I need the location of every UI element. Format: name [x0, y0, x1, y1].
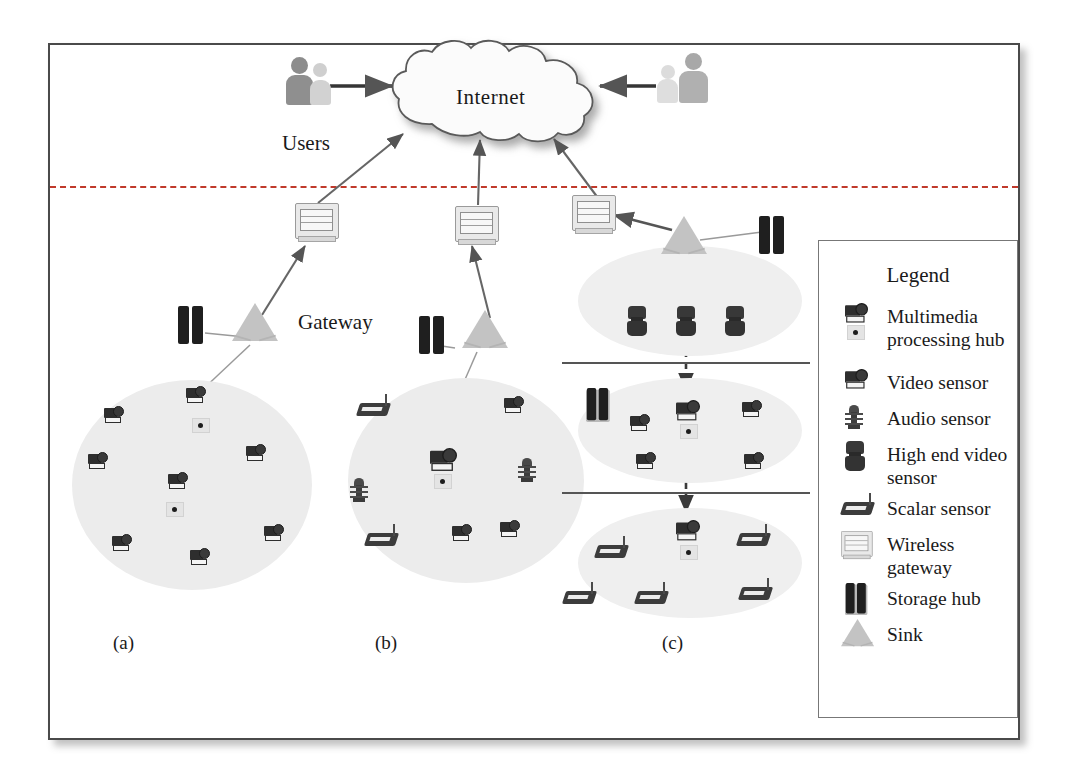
multimedia-processing-hub-c-tier2-marker[interactable] — [680, 424, 698, 439]
video-sensor-a3[interactable] — [88, 452, 108, 467]
tier2-tier3-separator — [562, 492, 810, 494]
legend-label: Sink — [887, 621, 923, 646]
legend-icon-slot — [841, 621, 887, 651]
storage-hub-cluster-c-tier2[interactable] — [586, 388, 610, 420]
legend-panel: Legend Multimedia processing hub Video — [818, 240, 1018, 718]
audio-sensor-b2[interactable] — [350, 478, 368, 502]
legend-item-sink: Sink — [819, 621, 1017, 651]
legend-item-audio-sensor: Audio sensor — [819, 405, 1017, 435]
legend-icon-slot — [841, 585, 887, 615]
video-sensor-a4[interactable] — [246, 444, 266, 459]
legend-icon-slot — [841, 495, 887, 525]
wireless-gateway-c[interactable] — [572, 195, 614, 233]
legend-label: Wireless gateway — [887, 531, 1017, 579]
multimedia-processing-hub-a2[interactable] — [166, 502, 184, 517]
scalar-sensor-c4[interactable] — [738, 528, 772, 548]
video-sensor-b2[interactable] — [452, 524, 472, 539]
legend-label: Storage hub — [887, 585, 981, 610]
internet-label: Internet — [456, 85, 525, 110]
multimedia-processing-hub-c-tier2[interactable] — [676, 400, 700, 418]
multimedia-processing-hub-b-marker[interactable] — [434, 474, 452, 489]
legend-icon-slot — [841, 441, 887, 471]
storage-hub-cluster-c-tier1[interactable] — [758, 216, 786, 254]
wireless-gateway-a[interactable] — [295, 203, 337, 241]
scalar-sensor-c2[interactable] — [564, 586, 598, 606]
video-sensor-a8[interactable] — [190, 548, 210, 563]
sink-cluster-b[interactable] — [462, 310, 508, 354]
wireless-gateway-icon — [841, 531, 871, 558]
legend-icon-slot — [841, 303, 887, 333]
video-sensor-a2[interactable] — [104, 406, 124, 421]
video-sensor-a1[interactable] — [186, 386, 206, 401]
high-end-video-sensor-c1[interactable] — [626, 306, 648, 336]
scalar-sensor-c5[interactable] — [740, 582, 774, 602]
legend-label: High end video sensor — [887, 441, 1017, 489]
users-right-group — [655, 53, 709, 111]
video-sensor-b3[interactable] — [500, 520, 520, 535]
gateway-label: Gateway — [298, 310, 373, 335]
scalar-sensor-b2[interactable] — [366, 528, 400, 548]
multimedia-processing-hub-c-tier3-marker[interactable] — [680, 545, 698, 560]
legend-icon-slot — [841, 369, 887, 399]
video-sensor-b1[interactable] — [504, 396, 524, 411]
video-sensor-a6[interactable] — [264, 524, 284, 539]
wireless-gateway-b[interactable] — [455, 206, 497, 244]
high-end-video-sensor-icon — [844, 441, 866, 471]
audio-sensor-b1[interactable] — [518, 458, 536, 482]
figure-canvas: Internet Users Gateway (a) (b) (c) — [0, 0, 1078, 780]
multimedia-processing-hub-icon-marker — [847, 325, 865, 340]
storage-hub-cluster-b[interactable] — [418, 316, 446, 354]
users-label: Users — [282, 131, 330, 156]
high-end-video-sensor-c2[interactable] — [675, 306, 697, 336]
legend-list: Multimedia processing hub Video sensor — [819, 303, 1017, 657]
legend-item-video-sensor: Video sensor — [819, 369, 1017, 399]
legend-title: Legend — [819, 263, 1017, 288]
video-sensor-c2-1[interactable] — [630, 414, 650, 429]
sink-cluster-a[interactable] — [232, 303, 278, 347]
legend-icon-slot — [841, 531, 887, 561]
audio-sensor-icon — [845, 405, 863, 429]
video-sensor-a5[interactable] — [168, 472, 188, 487]
legend-label: Audio sensor — [887, 405, 990, 430]
sink-cluster-c[interactable] — [661, 216, 707, 260]
network-tier-divider — [50, 186, 1018, 188]
cluster-c-tier1-region — [578, 246, 802, 356]
video-sensor-c2-3[interactable] — [636, 452, 656, 467]
high-end-video-sensor-c3[interactable] — [724, 306, 746, 336]
legend-label: Video sensor — [887, 369, 988, 394]
video-sensor-c2-2[interactable] — [742, 400, 762, 415]
scalar-sensor-c1[interactable] — [596, 540, 630, 560]
video-sensor-icon — [845, 369, 868, 386]
tier1-tier2-separator — [562, 362, 810, 364]
multimedia-processing-hub-icon — [845, 303, 868, 320]
sink-icon — [841, 619, 874, 651]
legend-item-multimedia-processing-hub: Multimedia processing hub — [819, 303, 1017, 351]
scalar-sensor-b1[interactable] — [358, 398, 392, 418]
scalar-sensor-icon — [842, 497, 876, 517]
subcaption-b: (b) — [375, 632, 397, 654]
legend-item-high-end-video-sensor: High end video sensor — [819, 441, 1017, 489]
multimedia-processing-hub-a1[interactable] — [192, 418, 210, 433]
legend-label: Scalar sensor — [887, 495, 990, 520]
storage-hub-icon — [845, 583, 867, 613]
video-sensor-a7[interactable] — [112, 534, 132, 549]
video-sensor-c2-4[interactable] — [744, 452, 764, 467]
multimedia-processing-hub-b[interactable] — [430, 448, 457, 468]
legend-item-wireless-gateway: Wireless gateway — [819, 531, 1017, 579]
legend-label: Multimedia processing hub — [887, 303, 1017, 351]
multimedia-processing-hub-c-tier3[interactable] — [676, 520, 700, 538]
legend-icon-slot — [841, 405, 887, 435]
legend-item-storage-hub: Storage hub — [819, 585, 1017, 615]
users-left-group — [285, 55, 333, 111]
scalar-sensor-c3[interactable] — [636, 586, 670, 606]
storage-hub-cluster-a[interactable] — [177, 306, 205, 344]
subcaption-a: (a) — [113, 632, 134, 654]
subcaption-c: (c) — [662, 632, 683, 654]
legend-item-scalar-sensor: Scalar sensor — [819, 495, 1017, 525]
